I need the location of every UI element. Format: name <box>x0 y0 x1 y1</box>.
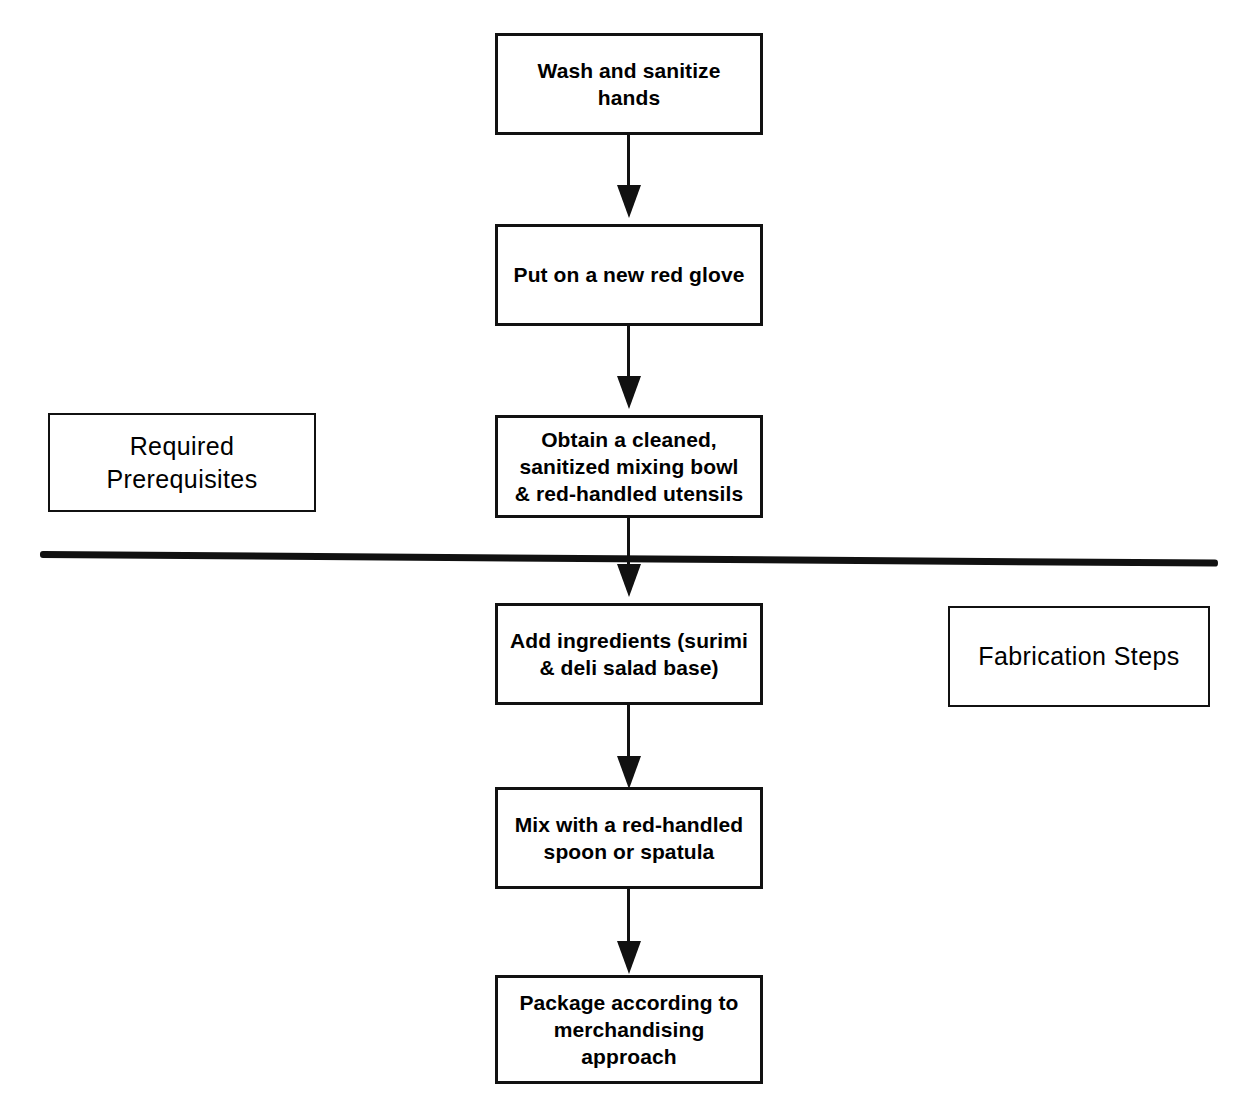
process-box-put-on-a-new-red-glove[interactable]: Put on a new red glove <box>495 224 763 326</box>
process-box-wash-and-sanitize-hands[interactable]: Wash and sanitize hands <box>495 33 763 135</box>
process-box-label: Mix with a red-handled spoon or spatula <box>509 811 750 866</box>
flowchart-canvas: Wash and sanitize hands Put on a new red… <box>0 0 1241 1120</box>
connector-stem-4-5 <box>627 705 630 759</box>
connector-arrowhead-4-5 <box>617 756 641 789</box>
process-box-package-according-to-merchandising[interactable]: Package according to merchandising appro… <box>495 975 763 1084</box>
connector-arrowhead-1-2 <box>617 185 641 218</box>
process-box-label: Wash and sanitize hands <box>532 57 727 112</box>
process-box-mix-with-red-handled-spoon[interactable]: Mix with a red-handled spoon or spatula <box>495 787 763 889</box>
process-box-label: Obtain a cleaned, sanitized mixing bowl … <box>509 426 750 508</box>
connector-arrowhead-2-3 <box>617 376 641 409</box>
process-box-label: Put on a new red glove <box>508 261 751 288</box>
section-label-fabrication-steps: Fabrication Steps <box>948 606 1210 707</box>
section-label-text: Required Prerequisites <box>106 430 257 495</box>
connector-arrowhead-5-6 <box>617 941 641 974</box>
process-box-label: Package according to merchandising appro… <box>513 989 744 1071</box>
connector-stem-5-6 <box>627 889 630 943</box>
connector-arrowhead-3-4 <box>617 564 641 597</box>
section-label-text: Fabrication Steps <box>978 640 1179 673</box>
connector-stem-1-2 <box>627 135 630 188</box>
section-label-required-prerequisites: Required Prerequisites <box>48 413 316 512</box>
connector-stem-2-3 <box>627 326 630 379</box>
process-box-obtain-cleaned-sanitized-mixing-bowl[interactable]: Obtain a cleaned, sanitized mixing bowl … <box>495 415 763 518</box>
process-box-label: Add ingredients (surimi & deli salad bas… <box>504 627 754 682</box>
process-box-add-ingredients[interactable]: Add ingredients (surimi & deli salad bas… <box>495 603 763 705</box>
